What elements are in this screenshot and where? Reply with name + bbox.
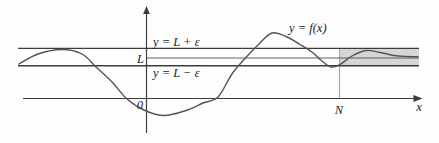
limit-label: L: [136, 52, 144, 66]
upper-epsilon-label: y = L + ε: [151, 35, 200, 49]
function-curve: [19, 33, 418, 116]
n-label: N: [334, 103, 344, 117]
lower-epsilon-label: y = L − ε: [151, 66, 200, 80]
limit-diagram: y = L + ε L y = L − ε y = f(x) 0 N x: [0, 0, 439, 143]
function-label: y = f(x): [287, 21, 327, 35]
y-axis-arrowhead: [143, 6, 150, 14]
x-axis-label: x: [415, 100, 422, 114]
origin-label: 0: [137, 98, 144, 112]
